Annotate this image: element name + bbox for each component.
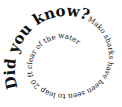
headline: Did you know? (1, 1, 93, 91)
spiral-text-graphic: Did you know?Mako sharks have been seen … (0, 0, 122, 107)
spiral-text: Did you know?Mako sharks have been seen … (1, 1, 116, 101)
